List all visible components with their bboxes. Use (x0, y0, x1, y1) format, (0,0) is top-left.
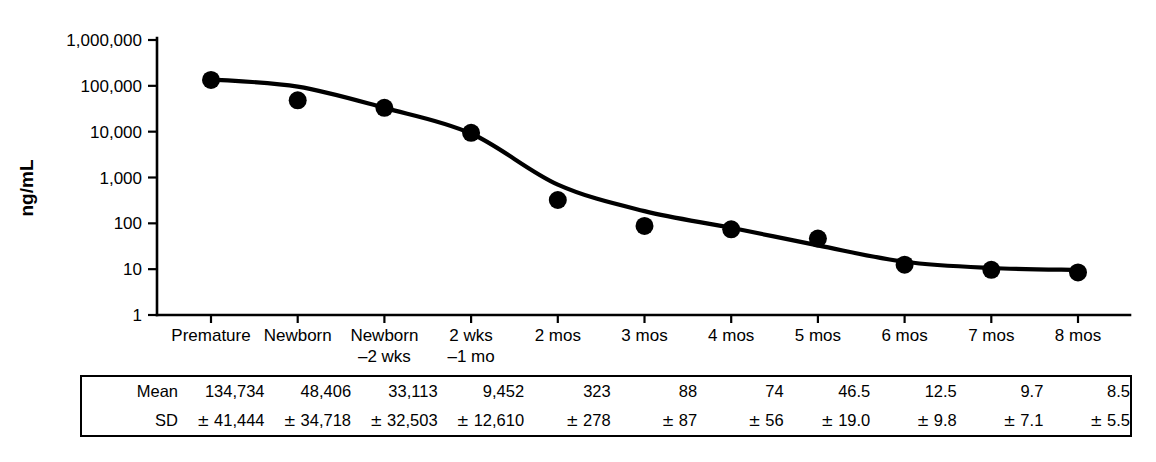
x-tick-label: 5 mos (795, 326, 841, 345)
plus-minus-symbol: ± (283, 412, 296, 430)
x-tick-label: Newborn (264, 326, 332, 345)
table-cell-sd: ± 32,503 (351, 407, 438, 435)
table-cell-sd: ± 34,718 (265, 407, 352, 435)
data-point-marker (896, 256, 914, 274)
plus-minus-symbol: ± (456, 412, 469, 430)
data-point-marker (462, 124, 480, 142)
table-cell-sd: ± 5.5 (1043, 407, 1130, 435)
table-cell-mean: 74 (697, 377, 784, 407)
x-tick-label: 3 mos (621, 326, 667, 345)
y-tick-label: 100 (114, 214, 142, 233)
data-point-markers (202, 71, 1087, 282)
table-cell-mean: 134,734 (178, 377, 265, 407)
plus-minus-symbol: ± (197, 412, 210, 430)
table-cell-mean: 48,406 (265, 377, 352, 407)
x-tick-label: Newborn–2 wks (350, 326, 418, 366)
table-cell-sd: ± 12,610 (438, 407, 525, 435)
table-cell-sd: ± 56 (697, 407, 784, 435)
y-tick-marks (148, 40, 157, 315)
data-point-marker (549, 191, 567, 209)
y-axis: 1,000,000100,00010,0001,000100101 ng/mL (16, 31, 157, 325)
y-tick-label: 1,000 (99, 169, 142, 188)
x-tick-label: 2 wks–1 mo (447, 326, 494, 366)
row-label-sd: SD (82, 407, 178, 435)
table-cell-mean: 8.5 (1043, 377, 1130, 407)
data-point-marker (289, 91, 307, 109)
data-point-marker (375, 99, 393, 117)
table-cell-mean: 46.5 (784, 377, 871, 407)
x-tick-label: 4 mos (708, 326, 754, 345)
table-cell-sd: ± 87 (611, 407, 698, 435)
x-tick-label: 8 mos (1055, 326, 1101, 345)
plus-minus-symbol: ± (748, 412, 761, 430)
table-row-mean: Mean 134,73448,40633,1139,452323887446.5… (82, 377, 1130, 407)
x-tick-label: 2 mos (535, 326, 581, 345)
table-cell-sd: ± 41,444 (178, 407, 265, 435)
row-label-mean: Mean (82, 377, 178, 407)
x-tick-label: 6 mos (881, 326, 927, 345)
x-tick-label: Premature (171, 326, 250, 345)
table-cell-sd: ± 9.8 (870, 407, 957, 435)
y-tick-label: 10 (123, 260, 142, 279)
plus-minus-symbol: ± (370, 412, 383, 430)
x-tick-labels: PrematureNewbornNewborn–2 wks2 wks–1 mo2… (171, 326, 1101, 366)
y-tick-label: 10,000 (90, 123, 142, 142)
plus-minus-symbol: ± (662, 412, 675, 430)
plus-minus-symbol: ± (821, 412, 834, 430)
data-point-marker (809, 230, 827, 248)
table-cell-mean: 12.5 (870, 377, 957, 407)
x-tick-label: 7 mos (968, 326, 1014, 345)
data-point-marker (1069, 263, 1087, 281)
table-cell-sd: ± 7.1 (957, 407, 1044, 435)
plus-minus-symbol: ± (1003, 412, 1016, 430)
data-point-marker (982, 261, 1000, 279)
table-cell-mean: 323 (524, 377, 611, 407)
statistics-table: Mean 134,73448,40633,1139,452323887446.5… (80, 375, 1132, 437)
y-tick-label: 1 (133, 306, 142, 325)
plus-minus-symbol: ± (917, 412, 930, 430)
table-cell-sd: ± 19.0 (784, 407, 871, 435)
x-axis: PrematureNewbornNewborn–2 wks2 wks–1 mo2… (157, 315, 1130, 366)
figure-container: 1,000,000100,00010,0001,000100101 ng/mL … (0, 0, 1156, 462)
fitted-curve (211, 79, 1078, 270)
y-tick-label: 1,000,000 (66, 31, 142, 50)
data-point-marker (202, 71, 220, 89)
plus-minus-symbol: ± (566, 412, 579, 430)
table-cell-mean: 9.7 (957, 377, 1044, 407)
table-row-sd: SD ± 41,444± 34,718± 32,503± 12,610± 278… (82, 407, 1130, 435)
plus-minus-symbol: ± (1090, 412, 1103, 430)
table-cell-mean: 9,452 (438, 377, 525, 407)
data-point-marker (636, 217, 654, 235)
table-cell-mean: 33,113 (351, 377, 438, 407)
y-tick-label: 100,000 (81, 77, 142, 96)
data-point-marker (722, 220, 740, 238)
y-axis-title: ng/mL (16, 159, 37, 216)
table-cell-sd: ± 278 (524, 407, 611, 435)
y-tick-labels: 1,000,000100,00010,0001,000100101 (66, 31, 142, 325)
table-cell-mean: 88 (611, 377, 698, 407)
